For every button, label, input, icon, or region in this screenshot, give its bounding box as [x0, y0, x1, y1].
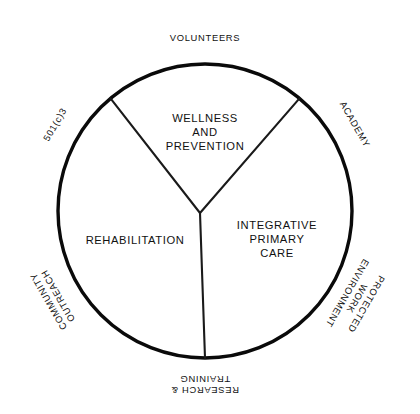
sector-label-rehabilitation: REHABILITATION [86, 234, 185, 246]
petal-label-volunteers: VOLUNTEERS [170, 32, 241, 43]
petal-label-501c3: 501(c)3 [41, 106, 69, 143]
sector-label-integrative-primary-care-line-3: CARE [260, 247, 293, 259]
sector-label-wellness-and-prevention-line-1: WELLNESS [172, 112, 238, 124]
sector-label-rehabilitation-line-1: REHABILITATION [86, 234, 185, 246]
sector-label-wellness-and-prevention-line-2: AND [192, 126, 217, 138]
petal-label-research-and-training-line-1: RESEARCH & [171, 384, 239, 395]
petal-label-research-and-training: RESEARCH &TRAINING [171, 373, 239, 395]
flower-petal-diagram: VOLUNTEERSACADEMYPROTECTEDWORKENVIRONMEN… [0, 0, 420, 414]
petal-label-academy: ACADEMY [337, 100, 372, 150]
petal-label-501c3-line-1: 501(c)3 [41, 106, 69, 143]
diagram-canvas: VOLUNTEERSACADEMYPROTECTEDWORKENVIRONMEN… [0, 0, 420, 414]
petal-label-research-and-training-line-2: TRAINING [180, 373, 230, 384]
petal-label-volunteers-line-1: VOLUNTEERS [170, 32, 241, 43]
sector-label-integrative-primary-care-line-2: PRIMARY [250, 233, 305, 245]
core-circle [58, 64, 352, 358]
sector-label-wellness-and-prevention-line-3: PREVENTION [166, 140, 245, 152]
sector-label-integrative-primary-care-line-1: INTEGRATIVE [237, 219, 317, 231]
petal-label-academy-line-1: ACADEMY [337, 100, 372, 150]
